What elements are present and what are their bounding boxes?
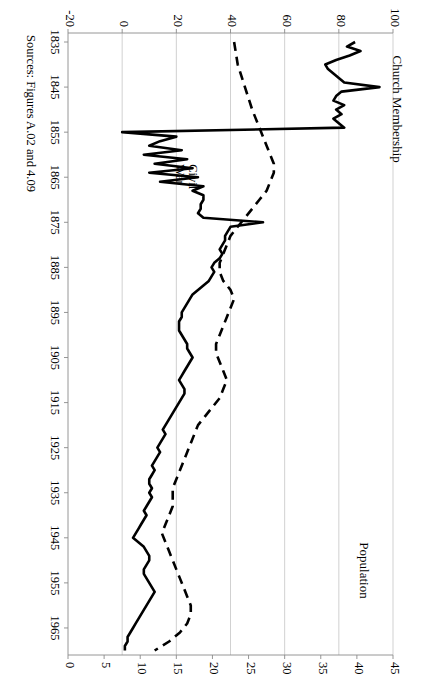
xtick-label-1905: 1905 [47,343,62,373]
ytick-label-40: 40 [225,0,240,27]
y2tick-label-30: 30 [279,662,294,688]
xtick-label-1935: 1935 [47,478,62,508]
xtick-label-1925: 1925 [47,433,62,463]
xtick-label-1845: 1845 [47,72,62,102]
xtick-label-1875: 1875 [47,207,62,237]
rotated-chart-wrapper: 1835184518551865187518851895190519151925… [0,0,426,688]
xtick-label-1965: 1965 [47,613,62,643]
y2tick-label-10: 10 [134,662,149,688]
y2tick-label-20: 20 [206,662,221,688]
xtick-label-1915: 1915 [47,388,62,418]
source-note: Sources: Figures A.02 and 4.09 [23,35,38,192]
series-church-membership [122,42,379,650]
annotation-civil-war-line2: War [173,164,186,189]
ytick-label-80: 80 [333,0,348,27]
annotation-civil-war-line1: Civil [186,164,199,189]
xtick-label-1955: 1955 [47,568,62,598]
y2tick-label-35: 35 [315,662,330,688]
series-label-population: Population [356,542,372,598]
xtick-label-1885: 1885 [47,252,62,282]
xtick-label-1855: 1855 [47,117,62,147]
ytick-label-100: 100 [387,0,402,27]
ytick-label--20: -20 [62,0,77,27]
y2tick-label-45: 45 [387,662,402,688]
series-label-church-membership: Church Membership [389,56,405,163]
y2tick-label-15: 15 [170,662,185,688]
xtick-label-1945: 1945 [47,523,62,553]
y2tick-label-40: 40 [351,662,366,688]
xtick-label-1865: 1865 [47,162,62,192]
ytick-label-60: 60 [279,0,294,27]
xtick-label-1835: 1835 [47,27,62,57]
figure-canvas: 1835184518551865187518851895190519151925… [0,0,426,688]
y2tick-label-25: 25 [243,662,258,688]
xtick-label-1895: 1895 [47,297,62,327]
y2tick-label-0: 0 [62,662,77,688]
y2tick-label-5: 5 [98,662,113,688]
series-population [155,42,274,650]
annotation-civil-war: CivilWar [173,164,199,189]
ytick-label-20: 20 [170,0,185,27]
ytick-label-0: 0 [116,0,131,27]
